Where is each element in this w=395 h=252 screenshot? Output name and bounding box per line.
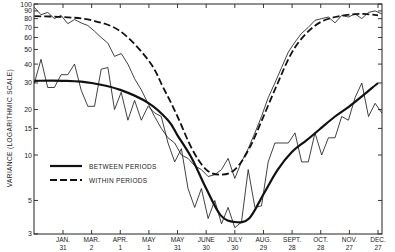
x-tick-label-month: MAY — [171, 236, 185, 243]
y-tick-label: 5 — [28, 197, 32, 204]
x-tick-label-day: 1 — [147, 244, 151, 251]
y-tick-label: 40 — [24, 61, 32, 68]
x-tick-label-month: JAN. — [56, 236, 70, 243]
y-tick-label: 60 — [24, 34, 32, 41]
y-axis: 3510152030405060708090100 — [20, 1, 382, 238]
x-tick-label-day: 1 — [118, 244, 122, 251]
y-axis-title: VARIANCE (LOGARITHMIC SCALE) — [6, 69, 14, 187]
x-tick-label-month: NOV. — [342, 236, 357, 243]
x-tick-label-month: APR. — [113, 236, 128, 243]
y-tick-label: 80 — [24, 15, 32, 22]
series-line — [34, 7, 381, 178]
x-tick-label-day: 31 — [59, 244, 67, 251]
x-tick-label-day: 28 — [288, 244, 296, 251]
plot-border — [34, 4, 382, 234]
x-tick-label-month: JUNE — [198, 236, 216, 243]
x-tick-label-day: 27 — [374, 244, 382, 251]
legend-label-within: WITHIN PERIODS — [89, 177, 148, 184]
variance-chart: 3510152030405060708090100 JAN.31MAR.2APR… — [0, 0, 395, 252]
y-tick-label: 20 — [24, 106, 32, 113]
x-tick-label-month: JULY — [227, 236, 243, 243]
x-tick-label-day: 30 — [231, 244, 239, 251]
y-tick-label: 3 — [28, 230, 32, 237]
x-tick-label-month: MAR. — [84, 236, 100, 243]
plot-frame — [34, 4, 382, 234]
x-tick-label-day: 28 — [317, 244, 325, 251]
x-tick-label-month: AUG. — [256, 236, 272, 243]
x-tick-label-day: 31 — [174, 244, 182, 251]
x-tick-label-month: MAY — [142, 236, 156, 243]
y-tick-label: 100 — [20, 1, 32, 8]
y-tick-label: 10 — [24, 152, 32, 159]
y-tick-label: 50 — [24, 46, 32, 53]
y-tick-label: 15 — [24, 125, 32, 132]
series-line — [34, 59, 381, 227]
y-tick-label: 70 — [24, 24, 32, 31]
x-tick-label-month: OCT. — [313, 236, 328, 243]
x-tick-label-day: 29 — [260, 244, 268, 251]
x-tick-label-day: 30 — [203, 244, 211, 251]
series-layer — [34, 7, 381, 227]
y-tick-label: 90 — [24, 7, 32, 14]
legend-label-between: BETWEEN PERIODS — [89, 163, 157, 170]
series-line — [34, 14, 378, 175]
legend: BETWEEN PERIODS WITHIN PERIODS — [50, 163, 157, 184]
x-tick-label-day: 27 — [346, 244, 354, 251]
x-tick-label-month: SEPT. — [283, 236, 301, 243]
x-tick-label-day: 2 — [90, 244, 94, 251]
x-tick-label-month: DEC. — [370, 236, 386, 243]
y-tick-label: 30 — [24, 79, 32, 86]
